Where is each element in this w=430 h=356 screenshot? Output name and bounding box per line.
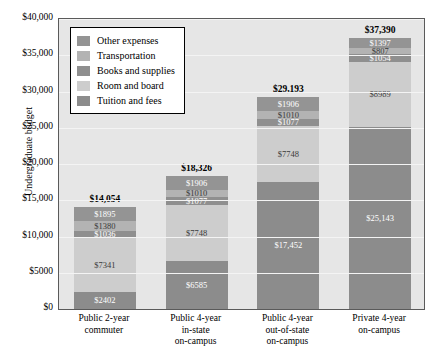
bar-segment-value-label: $7748: [278, 150, 299, 159]
bar-segment-value-label: $1906: [186, 179, 207, 188]
bar-segment-value-label: $17,452: [275, 241, 303, 250]
bar-segment[interactable]: $1906: [166, 176, 228, 190]
bar-segment-value-label: $1895: [94, 210, 115, 219]
bar-segment[interactable]: $7341: [74, 238, 136, 291]
y-axis-tick-label: $25,000: [22, 122, 53, 132]
legend-item[interactable]: Room and board: [77, 78, 175, 93]
y-axis-tick-label: $15,000: [22, 195, 53, 205]
bar-stack[interactable]: $1906$1010$1077$7748$17,452$29,193: [257, 97, 319, 309]
legend-swatch-icon: [77, 66, 90, 76]
x-axis-tick-label-line: Public 4-year: [144, 313, 248, 325]
legend-swatch-icon: [77, 51, 90, 61]
x-axis-tick-label: Private 4-yearon-campus: [327, 313, 430, 336]
bar-segment[interactable]: $6585: [166, 261, 228, 309]
x-axis-tick-label-line: on-campus: [235, 336, 339, 348]
x-axis-tick-label-line: out-of-state: [235, 325, 339, 337]
legend-item[interactable]: Other expenses: [77, 33, 175, 48]
bar-segment-value-label: $25,143: [366, 214, 394, 223]
legend-swatch-icon: [77, 96, 90, 106]
y-axis-tick-label: $40,000: [22, 13, 53, 23]
bar-segment-value-label: $1906: [278, 100, 299, 109]
gridline: [59, 164, 424, 165]
x-axis-tick-label: Public 2-yearcommuter: [52, 313, 156, 336]
bar-segment[interactable]: $1397: [349, 38, 411, 48]
legend-item[interactable]: Tuition and fees: [77, 93, 175, 108]
legend-item-label: Other expenses: [97, 36, 158, 46]
x-axis-tick-label: Public 4-yearout-of-stateon-campus: [235, 313, 339, 348]
x-axis-tick-label-line: Public 2-year: [52, 313, 156, 325]
y-axis-tick-label: $30,000: [22, 86, 53, 96]
bar-segment-value-label: $1077: [278, 119, 299, 127]
gridline: [59, 200, 424, 201]
legend-item-label: Room and board: [97, 81, 164, 91]
bar-segment[interactable]: $1895: [74, 207, 136, 221]
legend-item[interactable]: Transportation: [77, 48, 175, 63]
x-axis-tick-label-line: Public 4-year: [235, 313, 339, 325]
x-axis-tick-label-line: in-state: [144, 325, 248, 337]
bar-total-label: $29,193: [273, 84, 304, 94]
legend-swatch-icon: [77, 81, 90, 91]
legend-item-label: Transportation: [97, 51, 156, 61]
bar-stack[interactable]: $1906$1010$1077$7748$6585$18,326: [166, 176, 228, 309]
gridline: [59, 128, 424, 129]
stacked-bar-chart: Undergraduate budget $40,000$35,000$30,0…: [0, 0, 430, 356]
x-axis-tick-label-line: Private 4-year: [327, 313, 430, 325]
x-axis-tick-label: Public 4-yearin-stateon-campus: [144, 313, 248, 348]
x-axis-tick-label-line: on-campus: [144, 336, 248, 348]
gridline: [59, 237, 424, 238]
gridline: [59, 273, 424, 274]
bar-segment[interactable]: $17,452: [257, 182, 319, 309]
y-axis-tick-label: $5000: [29, 267, 53, 277]
bar-segment-value-label: $1010: [186, 190, 207, 197]
bar-segment[interactable]: $1010: [166, 190, 228, 197]
legend-item-label: Books and supplies: [97, 66, 175, 76]
bar-total-label: $14,054: [89, 194, 120, 204]
gridline: [59, 19, 424, 20]
legend-item-label: Tuition and fees: [97, 96, 162, 106]
bar-segment[interactable]: $2402: [74, 292, 136, 309]
y-axis-tick-labels: $40,000$35,000$30,000$25,000$20,000$15,0…: [0, 0, 57, 356]
y-axis-tick-label: $35,000: [22, 50, 53, 60]
bar-segment-value-label: $1397: [370, 39, 391, 48]
bar-segment[interactable]: $1906: [257, 97, 319, 111]
bar-stack[interactable]: $1895$1380$1036$7341$2402$14,054: [74, 207, 136, 309]
bar-segment[interactable]: $1010: [257, 111, 319, 118]
bar-segment[interactable]: $8989: [349, 62, 411, 127]
bar-segment-value-label: $6585: [186, 281, 207, 290]
y-axis-tick-label: $10,000: [22, 231, 53, 241]
bar-segment-value-label: $2402: [94, 296, 115, 305]
legend-swatch-icon: [77, 36, 90, 46]
y-axis-tick-label: $0: [44, 303, 54, 313]
legend-item[interactable]: Books and supplies: [77, 63, 175, 78]
bar-segment[interactable]: $7748: [166, 205, 228, 261]
bar-total-label: $37,390: [365, 25, 396, 35]
x-axis-tick-label-line: commuter: [52, 325, 156, 337]
x-axis-tick-label-line: on-campus: [327, 325, 430, 337]
y-axis-tick-label: $20,000: [22, 158, 53, 168]
bar-segment[interactable]: $1077: [257, 119, 319, 127]
bar-segment-value-label: $7341: [94, 261, 115, 270]
bar-segment-value-label: $1010: [278, 111, 299, 118]
bar-stack[interactable]: $1397$807$1054$8989$25,143$37,390: [349, 38, 411, 309]
legend: Other expensesTransportationBooks and su…: [70, 27, 185, 114]
bar-segment[interactable]: $1380: [74, 221, 136, 231]
bar-segment-value-label: $1380: [94, 222, 115, 231]
bar-segment[interactable]: $7748: [257, 126, 319, 182]
bar-segment[interactable]: $25,143: [349, 127, 411, 309]
